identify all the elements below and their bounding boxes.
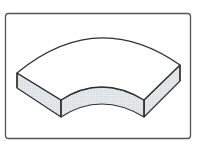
curved-slab-diagram xyxy=(0,0,198,141)
diagram-canvas xyxy=(0,0,198,141)
